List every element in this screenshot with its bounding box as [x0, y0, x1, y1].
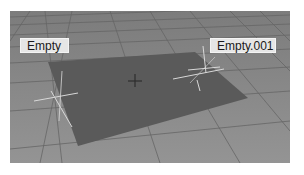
viewport-canvas[interactable]: [10, 11, 290, 163]
3d-viewport[interactable]: Empty Empty.001: [10, 11, 290, 163]
label-empty-001: Empty.001: [210, 38, 276, 53]
screenshot-stage: Empty Empty.001: [0, 0, 304, 175]
label-empty: Empty: [20, 38, 69, 53]
